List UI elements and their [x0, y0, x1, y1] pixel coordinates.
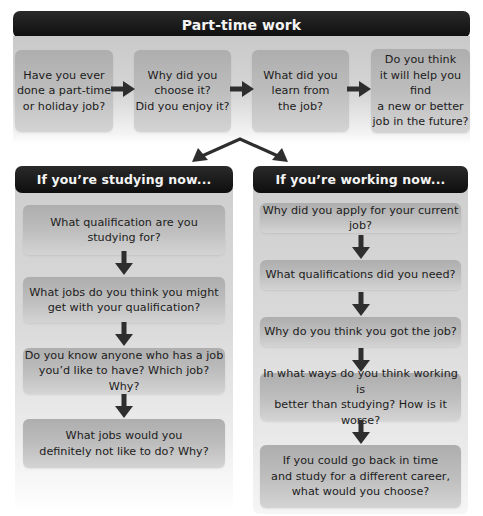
studying-title: If you’re studying now...: [37, 172, 212, 187]
arrow-right-icon: [347, 80, 371, 98]
working-step-1: Why did you apply for your current job?: [260, 203, 461, 233]
top-step-4: Do you think it will help you find a new…: [371, 49, 470, 133]
arrow-right-icon: [230, 80, 254, 98]
working-step-2: What qualifications did you need?: [260, 260, 461, 290]
main-title-bar: Part-time work: [13, 11, 470, 38]
studying-step-2: What jobs do you think you might get wit…: [23, 277, 225, 323]
studying-step-3: Do you know anyone who has a job you’d l…: [23, 348, 225, 394]
arrow-down-icon: [115, 251, 133, 275]
working-title: If you’re working now...: [276, 172, 446, 187]
arrow-right-icon: [111, 80, 135, 98]
main-title: Part-time work: [182, 17, 301, 33]
working-header: If you’re working now...: [253, 166, 468, 193]
working-step-3: Why do you think you got the job?: [260, 317, 461, 347]
studying-header: If you’re studying now...: [15, 166, 233, 193]
working-step-4: In what ways do you think working is bet…: [260, 373, 461, 421]
arrow-down-icon: [352, 235, 370, 259]
arrow-down-icon: [115, 394, 133, 418]
arrow-down-icon: [352, 420, 370, 444]
top-step-1: Have you ever done a part-time or holida…: [15, 50, 113, 132]
top-step-3: What did you learn from the job?: [252, 50, 349, 132]
top-step-2: Why did you choose it? Did you enjoy it?: [134, 50, 231, 132]
working-step-5: If you could go back in time and study f…: [260, 445, 461, 508]
branch-split-arrows-icon: [188, 136, 292, 166]
studying-step-1: What qualification are you studying for?: [23, 205, 225, 255]
arrow-down-icon: [115, 322, 133, 346]
studying-step-4: What jobs would you definitely not like …: [23, 419, 225, 468]
arrow-down-icon: [352, 292, 370, 316]
